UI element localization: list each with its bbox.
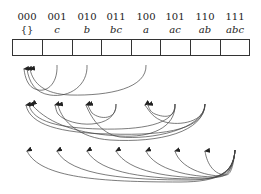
level-1-arcs [24, 65, 146, 95]
subset-arcs [0, 0, 261, 194]
level-2-arcs [26, 104, 205, 140]
level-3-arcs [27, 150, 235, 182]
